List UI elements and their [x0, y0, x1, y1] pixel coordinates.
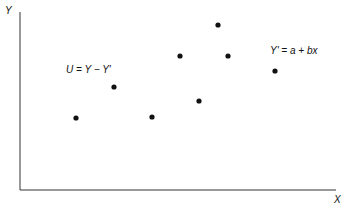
data-point — [225, 53, 230, 58]
scatter-plot — [0, 0, 343, 207]
data-point — [215, 22, 220, 27]
data-point — [73, 115, 78, 120]
regression-annotation: Y' = a + bx — [270, 45, 318, 56]
data-point — [111, 84, 116, 89]
data-point — [272, 68, 277, 73]
residual-annotation: U = Y − Y' — [66, 64, 111, 75]
data-point — [196, 98, 201, 103]
y-axis-label: Y — [5, 5, 12, 16]
x-axis-label: X — [334, 194, 341, 205]
data-point — [177, 53, 182, 58]
data-point — [149, 114, 154, 119]
